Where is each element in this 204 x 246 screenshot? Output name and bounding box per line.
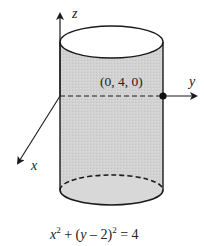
x-axis-label: x <box>30 158 38 173</box>
cylinder-top-face <box>60 26 163 58</box>
equation-plus: + ( <box>61 227 81 243</box>
equation: x2 + (y – 2)2 = 4 <box>49 225 139 243</box>
equation-rhs: = 4 <box>117 227 139 242</box>
x-axis <box>18 96 60 163</box>
equation-minus-two: – 2) <box>87 227 113 243</box>
point-label: (0, 4, 0) <box>100 74 143 89</box>
cylinder-diagram: z y x (0, 4, 0) x2 + (y – 2)2 = 4 <box>0 0 204 246</box>
y-axis-label: y <box>187 74 196 89</box>
point-marker <box>159 92 166 99</box>
z-axis-label: z <box>71 6 78 21</box>
